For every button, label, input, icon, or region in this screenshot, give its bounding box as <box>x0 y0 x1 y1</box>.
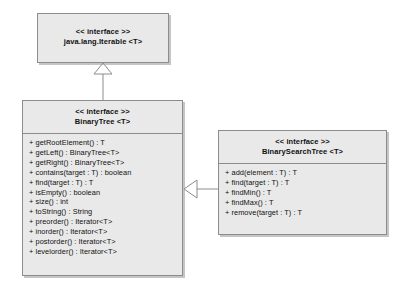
member-item: + postorder() : Iterator<T> <box>23 237 182 247</box>
member-item: + inorder() : Iterator<T> <box>23 227 182 237</box>
class-header-binary-tree: << interface >> BinaryTree <T> <box>23 101 182 134</box>
member-item: + getRootElement() : T <box>23 138 182 148</box>
generalization-bst-to-binarytree <box>184 180 218 198</box>
hollow-triangle-arrowhead-icon <box>184 180 197 198</box>
member-list-binary-search-tree: + add(element : T) : T + find(target : T… <box>219 164 386 222</box>
member-item: + findMin() : T <box>219 188 386 198</box>
stereotype-label: << interface >> <box>222 137 383 147</box>
class-header-binary-search-tree: << interface >> BinarySearchTree <T> <box>219 131 386 164</box>
member-item: + toString() : String <box>23 207 182 217</box>
member-item: + findMax() : T <box>219 198 386 208</box>
member-item: + remove(target : T) : T <box>219 208 386 218</box>
class-header-iterable: << interface >> java.lang.Iterable <T> <box>38 14 168 52</box>
member-item: + getRight() : BinaryTree<T> <box>23 158 182 168</box>
member-item: + preorder() : Iterator<T> <box>23 217 182 227</box>
member-list-binary-tree: + getRootElement() : T + getLeft() : Bin… <box>23 134 182 261</box>
member-item: + size() : int <box>23 197 182 207</box>
class-box-iterable[interactable]: << interface >> java.lang.Iterable <T> <box>37 13 169 63</box>
member-item: + find(target : T) : T <box>219 178 386 188</box>
generalization-binarytree-to-iterable <box>94 63 112 100</box>
stereotype-label: << interface >> <box>26 107 179 117</box>
uml-class-diagram: << interface >> java.lang.Iterable <T> <… <box>0 0 403 293</box>
member-item: + add(element : T) : T <box>219 168 386 178</box>
hollow-triangle-arrowhead-icon <box>94 63 112 74</box>
stereotype-label: << interface >> <box>41 27 165 37</box>
member-item: + getLeft() : BinaryTree<T> <box>23 148 182 158</box>
class-name-label: BinarySearchTree <T> <box>222 147 383 157</box>
member-item: + levelorder() : Iterator<T> <box>23 247 182 257</box>
member-item: + contains(target : T) : boolean <box>23 168 182 178</box>
class-box-binary-search-tree[interactable]: << interface >> BinarySearchTree <T> + a… <box>218 130 387 235</box>
class-name-label: java.lang.Iterable <T> <box>41 37 165 47</box>
class-name-label: BinaryTree <T> <box>26 117 179 127</box>
class-box-binary-tree[interactable]: << interface >> BinaryTree <T> + getRoot… <box>22 100 183 276</box>
member-item: + isEmpty() : boolean <box>23 188 182 198</box>
member-item: + find(target : T) : T <box>23 178 182 188</box>
